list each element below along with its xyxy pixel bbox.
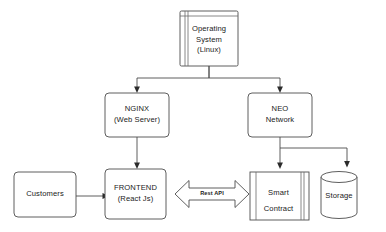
edge-os-to-nginx: [134, 66, 209, 93]
node-operating-system[interactable]: [180, 11, 238, 66]
edge-neo-to-storage: [280, 148, 350, 168]
diagram-canvas: Operating System (Linux) NGINX (Web Serv…: [0, 0, 386, 232]
rest-api-label: Rest API: [189, 190, 235, 196]
node-nginx[interactable]: [105, 93, 169, 137]
node-frontend[interactable]: [105, 169, 166, 219]
edge-nginx-to-frontend: [134, 137, 140, 169]
node-neo-network[interactable]: [248, 93, 312, 137]
node-storage[interactable]: [321, 172, 357, 219]
edge-neo-to-smart-contract: [277, 137, 283, 169]
edge-customers-to-frontend: [76, 193, 109, 199]
node-smart-contract[interactable]: [250, 172, 309, 220]
diagram-svg: [0, 0, 386, 232]
node-customers[interactable]: [14, 172, 76, 217]
edge-os-to-neo: [209, 66, 283, 93]
